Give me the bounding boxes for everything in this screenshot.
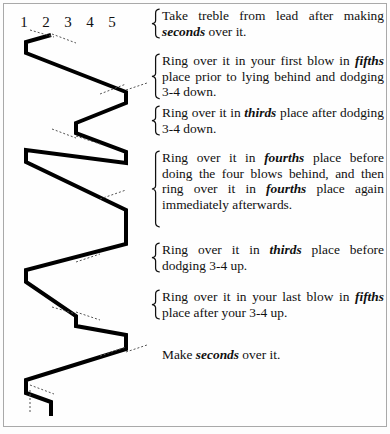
text-run: place after your 3-4 up. (162, 305, 287, 320)
curly-brace-icon (150, 8, 161, 39)
text-run: Ring over it in (162, 105, 244, 120)
emphasis-term: thirds (244, 105, 276, 120)
curly-brace-icon (150, 242, 161, 273)
text-run: Ring over it in your last blow in (162, 289, 355, 304)
emphasis-term: fourths (264, 150, 304, 165)
annotation-text: Ring over it in fourths place before doi… (162, 150, 384, 228)
emphasis-term: seconds (162, 24, 205, 39)
annotation-item: Ring over it in your last blow in fifths… (150, 289, 384, 320)
emphasis-term: thirds (270, 242, 302, 257)
blue-line-diagram: 12345 (4, 4, 147, 430)
guide-tick-2 (52, 34, 76, 43)
guide-tick-5 (52, 129, 76, 138)
text-run: over it. (239, 347, 280, 362)
emphasis-term: fifths (355, 289, 384, 304)
annotation-item: Ring over it in fourths place before doi… (150, 150, 384, 228)
text-run: Ring over it in your first blow in (162, 53, 355, 68)
guide-tick-7 (100, 190, 126, 199)
annotation-item: Ring over it in thirds place after dodgi… (150, 105, 384, 136)
annotation-text: Ring over it in your last blow in fifths… (162, 289, 384, 320)
diagram-page: 12345 Take treble from lead after making… (0, 0, 390, 434)
text-run: Ring over it in (162, 242, 270, 257)
guide-tick-10 (76, 312, 100, 320)
annotation-text: Take treble from lead after making secon… (162, 8, 384, 39)
text-run: over it. (205, 24, 246, 39)
text-run: Ring over it in (162, 150, 264, 165)
curly-brace-icon (150, 105, 161, 136)
curly-brace-icon (150, 289, 161, 320)
emphasis-term: fourths (266, 181, 306, 196)
text-run: Make (162, 347, 196, 362)
emphasis-term: fifths (355, 53, 384, 68)
annotation-text: Ring over it in your first blow in fifth… (162, 53, 384, 100)
annotation-item: Take treble from lead after making secon… (150, 8, 384, 39)
text-run: Take treble from lead after making (162, 8, 384, 23)
method-line (26, 35, 126, 416)
guide-tick-13 (30, 385, 54, 394)
annotation-item: Make seconds over it. (150, 347, 384, 363)
annotation-list: Take treble from lead after making secon… (150, 6, 384, 430)
curly-brace-icon (150, 150, 161, 228)
guide-tick-12 (126, 344, 147, 352)
curly-brace-icon (150, 53, 161, 100)
annotation-item: Ring over it in your first blow in fifth… (150, 53, 384, 100)
annotation-text: Make seconds over it. (162, 347, 384, 363)
annotation-item: Ring over it in thirds place before dodg… (150, 242, 384, 273)
annotation-text: Ring over it in thirds place after dodgi… (162, 105, 384, 136)
guide-tick-4 (126, 82, 147, 90)
text-run: place prior to lying behind and dodging … (162, 69, 384, 100)
annotation-text: Ring over it in thirds place before dodg… (162, 242, 384, 273)
blue-line-path (4, 4, 147, 430)
emphasis-term: seconds (196, 347, 239, 362)
